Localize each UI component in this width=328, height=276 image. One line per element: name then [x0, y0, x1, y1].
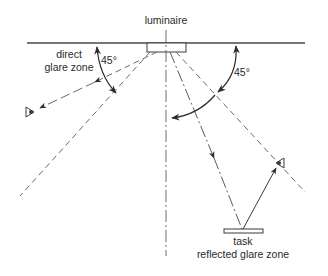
left-angle-label: 45° — [101, 54, 117, 66]
left-45-boundary — [20, 52, 150, 196]
luminaire-label: luminaire — [145, 14, 188, 26]
reflected-glare-label: reflected glare zone — [197, 248, 289, 260]
direct-glare-label-line1: direct — [56, 48, 82, 60]
right-angle-arc-lower — [172, 95, 215, 118]
incident-ray-lower — [214, 158, 242, 229]
right-eye-icon — [276, 158, 284, 168]
left-eye-icon — [26, 107, 34, 117]
task-surface — [224, 229, 263, 233]
direct-glare-label-line2: glare zone — [44, 61, 93, 73]
incident-ray — [170, 52, 214, 158]
direct-glare-ray-arrow — [40, 82, 95, 108]
glare-zone-diagram: luminaire direct glare zone 45° 45° task… — [0, 0, 328, 276]
reflected-ray — [243, 168, 276, 229]
right-angle-label: 45° — [234, 66, 250, 78]
task-label: task — [233, 235, 253, 247]
